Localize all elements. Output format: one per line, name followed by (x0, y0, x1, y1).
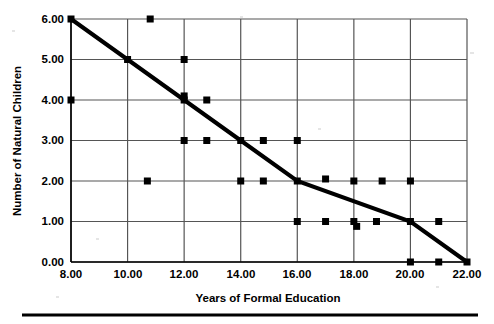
data-point-marker (260, 137, 267, 144)
data-point-marker (237, 178, 244, 185)
y-tick-label: 1.00 (42, 215, 64, 227)
x-tick-labels: 8.00 10.00 12.00 14.00 16.00 18.00 20.00… (60, 268, 482, 280)
data-point-marker (350, 178, 357, 185)
data-point-marker (144, 178, 151, 185)
x-tick-label: 14.00 (227, 268, 256, 280)
y-tick-label: 5.00 (42, 53, 64, 65)
data-point-marker (147, 16, 154, 23)
data-point-marker (181, 137, 188, 144)
y-tick-label: 6.00 (42, 13, 64, 25)
data-point-marker (407, 259, 414, 266)
gridlines (71, 19, 467, 262)
data-point-marker (435, 259, 442, 266)
y-tick-labels: 6.00 5.00 4.00 3.00 2.00 1.00 0.00 (42, 13, 64, 268)
data-point-marker (373, 218, 380, 225)
y-axis-title: Number of Natural Children (11, 66, 23, 216)
x-tick-label: 18.00 (340, 268, 369, 280)
data-point-marker (203, 137, 210, 144)
data-point-marker (294, 218, 301, 225)
y-tick-label: 2.00 (42, 175, 64, 187)
data-point-marker (435, 218, 442, 225)
y-axis-title-group: Number of Natural Children (11, 66, 23, 216)
chart-figure: Number of Natural Children Years of Form… (0, 0, 494, 324)
data-point-marker (322, 218, 329, 225)
data-point-marker (379, 178, 386, 185)
data-point-marker (407, 178, 414, 185)
x-axis-title: Years of Formal Education (195, 292, 340, 304)
data-point-marker (353, 223, 360, 230)
data-point-marker (322, 175, 329, 182)
x-tick-label: 16.00 (283, 268, 312, 280)
y-tick-label: 4.00 (42, 94, 64, 106)
y-tick-label: 3.00 (42, 134, 64, 146)
x-tick-label: 8.00 (60, 268, 82, 280)
data-point-marker (181, 56, 188, 63)
x-tick-label: 10.00 (114, 268, 143, 280)
x-tick-label: 20.00 (396, 268, 425, 280)
data-point-marker (203, 97, 210, 104)
scatter-plot-canvas: Number of Natural Children Years of Form… (0, 0, 494, 324)
data-point-marker (68, 97, 75, 104)
y-tick-label: 0.00 (42, 256, 64, 268)
x-tick-label: 22.00 (453, 268, 482, 280)
data-point-marker (294, 137, 301, 144)
plot-area (68, 16, 471, 266)
x-tick-label: 12.00 (170, 268, 199, 280)
data-point-marker (260, 178, 267, 185)
